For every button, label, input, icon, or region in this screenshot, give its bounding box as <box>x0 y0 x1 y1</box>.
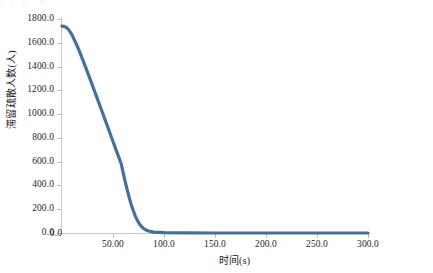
x-axis-title-text: 时间(s) <box>219 252 251 267</box>
series-line-evacuees <box>62 26 368 233</box>
series-line-layer <box>0 0 433 273</box>
y-axis-title: 滞留疏散人数(人) <box>3 36 18 144</box>
x-axis-title: 时间(s) <box>0 252 433 267</box>
chart-figure: 0.0200.0400.0600.0800.01000.01200.01400.… <box>0 0 433 273</box>
